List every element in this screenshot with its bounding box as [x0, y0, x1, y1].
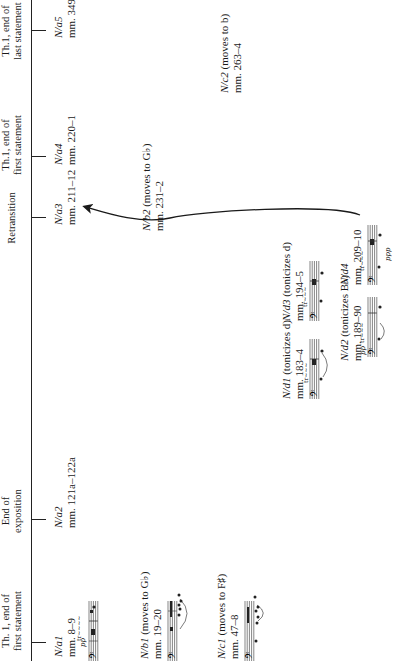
svg-text:𝄢: 𝄢	[309, 390, 322, 397]
svg-text:tr~~~: tr~~~	[302, 363, 309, 383]
svg-text:tr~~~: tr~~~	[358, 251, 365, 271]
svg-text:𝄢: 𝄢	[88, 652, 101, 659]
excerpt-d3: 𝄢 tr~~~	[301, 261, 324, 321]
svg-text:tr~~~: tr~~~	[301, 287, 308, 307]
svg-text:𝄢: 𝄢	[309, 312, 322, 319]
excerpt-a1: 𝄢 pp tr~~~~	[75, 601, 101, 661]
svg-text:pp: pp	[359, 346, 367, 355]
excerpt-c1: 𝄢	[244, 596, 263, 661]
excerpt-d1: 𝄢 tr~~~	[302, 339, 327, 399]
excerpt-d2: 𝄢 pp tr~~~	[358, 297, 384, 357]
music-excerpts: 𝄢 pp tr~~~~ 𝄢 𝄢	[0, 0, 407, 661]
svg-text:𝄢: 𝄢	[244, 652, 257, 659]
return-arrow	[86, 207, 360, 220]
svg-text:𝄢: 𝄢	[167, 652, 180, 659]
svg-text:𝄢: 𝄢	[367, 276, 380, 283]
excerpt-d4: 𝄢 ppp tr~~~	[358, 225, 392, 285]
svg-text:𝄢: 𝄢	[367, 348, 380, 355]
formal-timeline-diagram: Th. 1, end of first statement End of exp…	[0, 0, 407, 661]
svg-text:tr~~~: tr~~~	[358, 323, 365, 343]
excerpt-b1: 𝄢	[167, 594, 187, 661]
svg-text:ppp: ppp	[384, 247, 392, 261]
svg-text:tr~~~~: tr~~~~	[75, 616, 82, 641]
